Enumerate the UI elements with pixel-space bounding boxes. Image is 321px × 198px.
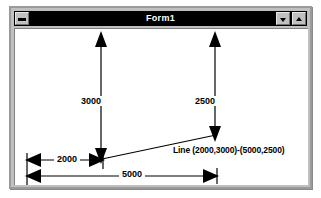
triangle-down-icon	[280, 18, 286, 22]
window-titlebar[interactable]: Form1	[14, 11, 307, 26]
form-window: Form1	[9, 6, 312, 189]
window-title: Form1	[14, 12, 307, 25]
triangle-up-icon	[296, 17, 302, 21]
form-canvas[interactable]: 3000 2500 2000 5000 Line (2000,3000)-(50…	[14, 28, 308, 185]
label-line-caption: Line (2000,3000)-(5000,2500)	[172, 145, 286, 155]
screenshot-root: Form1	[0, 0, 321, 198]
label-5000: 5000	[119, 169, 145, 179]
label-2500: 2500	[193, 96, 217, 106]
label-2000: 2000	[54, 154, 80, 164]
maximize-button[interactable]	[292, 12, 306, 25]
minimize-button[interactable]	[276, 12, 290, 25]
dimension-arrow-2500	[209, 31, 221, 142]
label-3000: 3000	[79, 96, 103, 106]
